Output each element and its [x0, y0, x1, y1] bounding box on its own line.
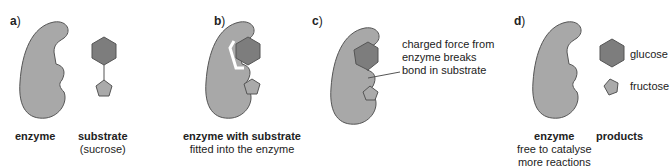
- panel-a-substrate-label: substrate(sucrose): [78, 130, 128, 156]
- panel-c-letter: c): [312, 14, 323, 28]
- panel-a-substrate: [92, 37, 116, 96]
- panel-b-caption: enzyme with substratefitted into the enz…: [183, 130, 301, 156]
- panel-a-enzyme: [20, 22, 68, 118]
- panel-d-enzyme: [533, 22, 581, 118]
- panel-b-enzyme: [206, 22, 254, 118]
- panel-c-annotation: charged force fromenzyme breaksbond in s…: [402, 38, 494, 77]
- products-label: products: [596, 130, 643, 143]
- panel-d-enzyme-label: enzymefree to catalysemore reactions: [517, 130, 592, 168]
- panel-c-enzyme: [331, 28, 379, 124]
- fructose-label: fructose: [630, 80, 669, 93]
- glucose-label: glucose: [630, 48, 668, 61]
- panel-a-enzyme-label: enzyme: [15, 130, 55, 143]
- panel-d-products: [600, 39, 624, 95]
- panel-b-letter: b): [214, 14, 225, 28]
- panel-d-letter: d): [514, 14, 525, 28]
- panel-a-letter: a): [10, 14, 21, 28]
